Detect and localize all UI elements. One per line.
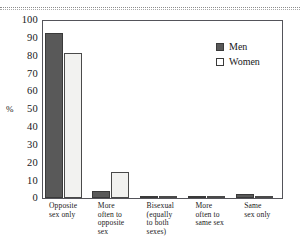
- bar-women-0: [64, 53, 82, 198]
- bar-chart-figure: 100 90 80 70 60 50 40 30 20 10 0 % Oppos…: [0, 0, 300, 246]
- legend-label-men: Men: [229, 42, 247, 52]
- y-tick-60: 60: [12, 86, 38, 96]
- y-tick-0: 0: [12, 193, 38, 203]
- x-category-label-0: Oppositesex only: [49, 202, 94, 219]
- legend-label-women: Women: [229, 57, 260, 67]
- y-tick-30: 30: [12, 140, 38, 150]
- bar-women-2: [159, 196, 177, 198]
- legend-swatch-men-icon: [216, 43, 224, 51]
- bar-men-3: [188, 196, 206, 198]
- scan-artifact-rule-second: [0, 9, 300, 10]
- y-tick-80: 80: [12, 51, 38, 61]
- x-category-label-4: Samesex only: [244, 202, 289, 219]
- x-category-label-3: Moreoften tosame sex: [195, 202, 240, 228]
- y-tick-90: 90: [12, 33, 38, 43]
- y-tick-50: 50: [12, 104, 38, 114]
- x-category-label-1: Moreoften tooppositesex: [98, 202, 143, 236]
- legend-item-men: Men: [216, 40, 286, 53]
- y-tick-20: 20: [12, 158, 38, 168]
- legend-item-women: Women: [216, 55, 286, 68]
- x-category-label-2: Bisexual(equallyto bothsexes): [147, 202, 192, 236]
- chart-legend: Men Women: [216, 40, 286, 70]
- bar-men-0: [45, 33, 63, 198]
- bar-men-1: [92, 191, 110, 198]
- bar-women-3: [207, 196, 225, 198]
- bar-women-4: [255, 196, 273, 198]
- y-tick-100: 100: [12, 15, 38, 25]
- y-tick-40: 40: [12, 122, 38, 132]
- y-tick-70: 70: [12, 69, 38, 79]
- bar-men-2: [140, 196, 158, 198]
- x-axis-category-labels: Oppositesex onlyMoreoften tooppositesexB…: [42, 202, 286, 246]
- y-axis-label: %: [6, 104, 14, 114]
- y-tick-10: 10: [12, 176, 38, 186]
- bar-men-4: [236, 194, 254, 198]
- legend-swatch-women-icon: [216, 58, 224, 66]
- scan-artifact-rule-top: [0, 7, 300, 8]
- bar-women-1: [111, 172, 129, 198]
